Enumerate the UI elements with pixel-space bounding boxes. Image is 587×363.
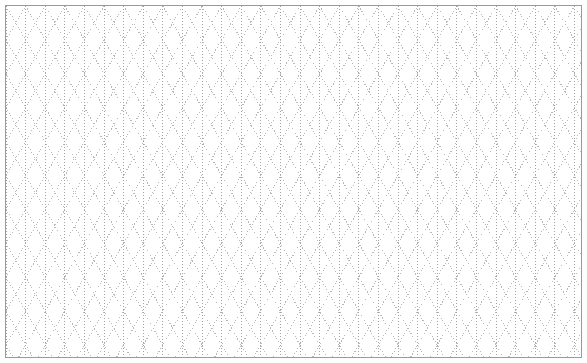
grid-border-frame: [5, 5, 582, 358]
grid-paper-page: [0, 0, 587, 363]
isometric-dot-grid-surface: [6, 6, 581, 357]
isometric-grid-lines: [6, 6, 581, 357]
